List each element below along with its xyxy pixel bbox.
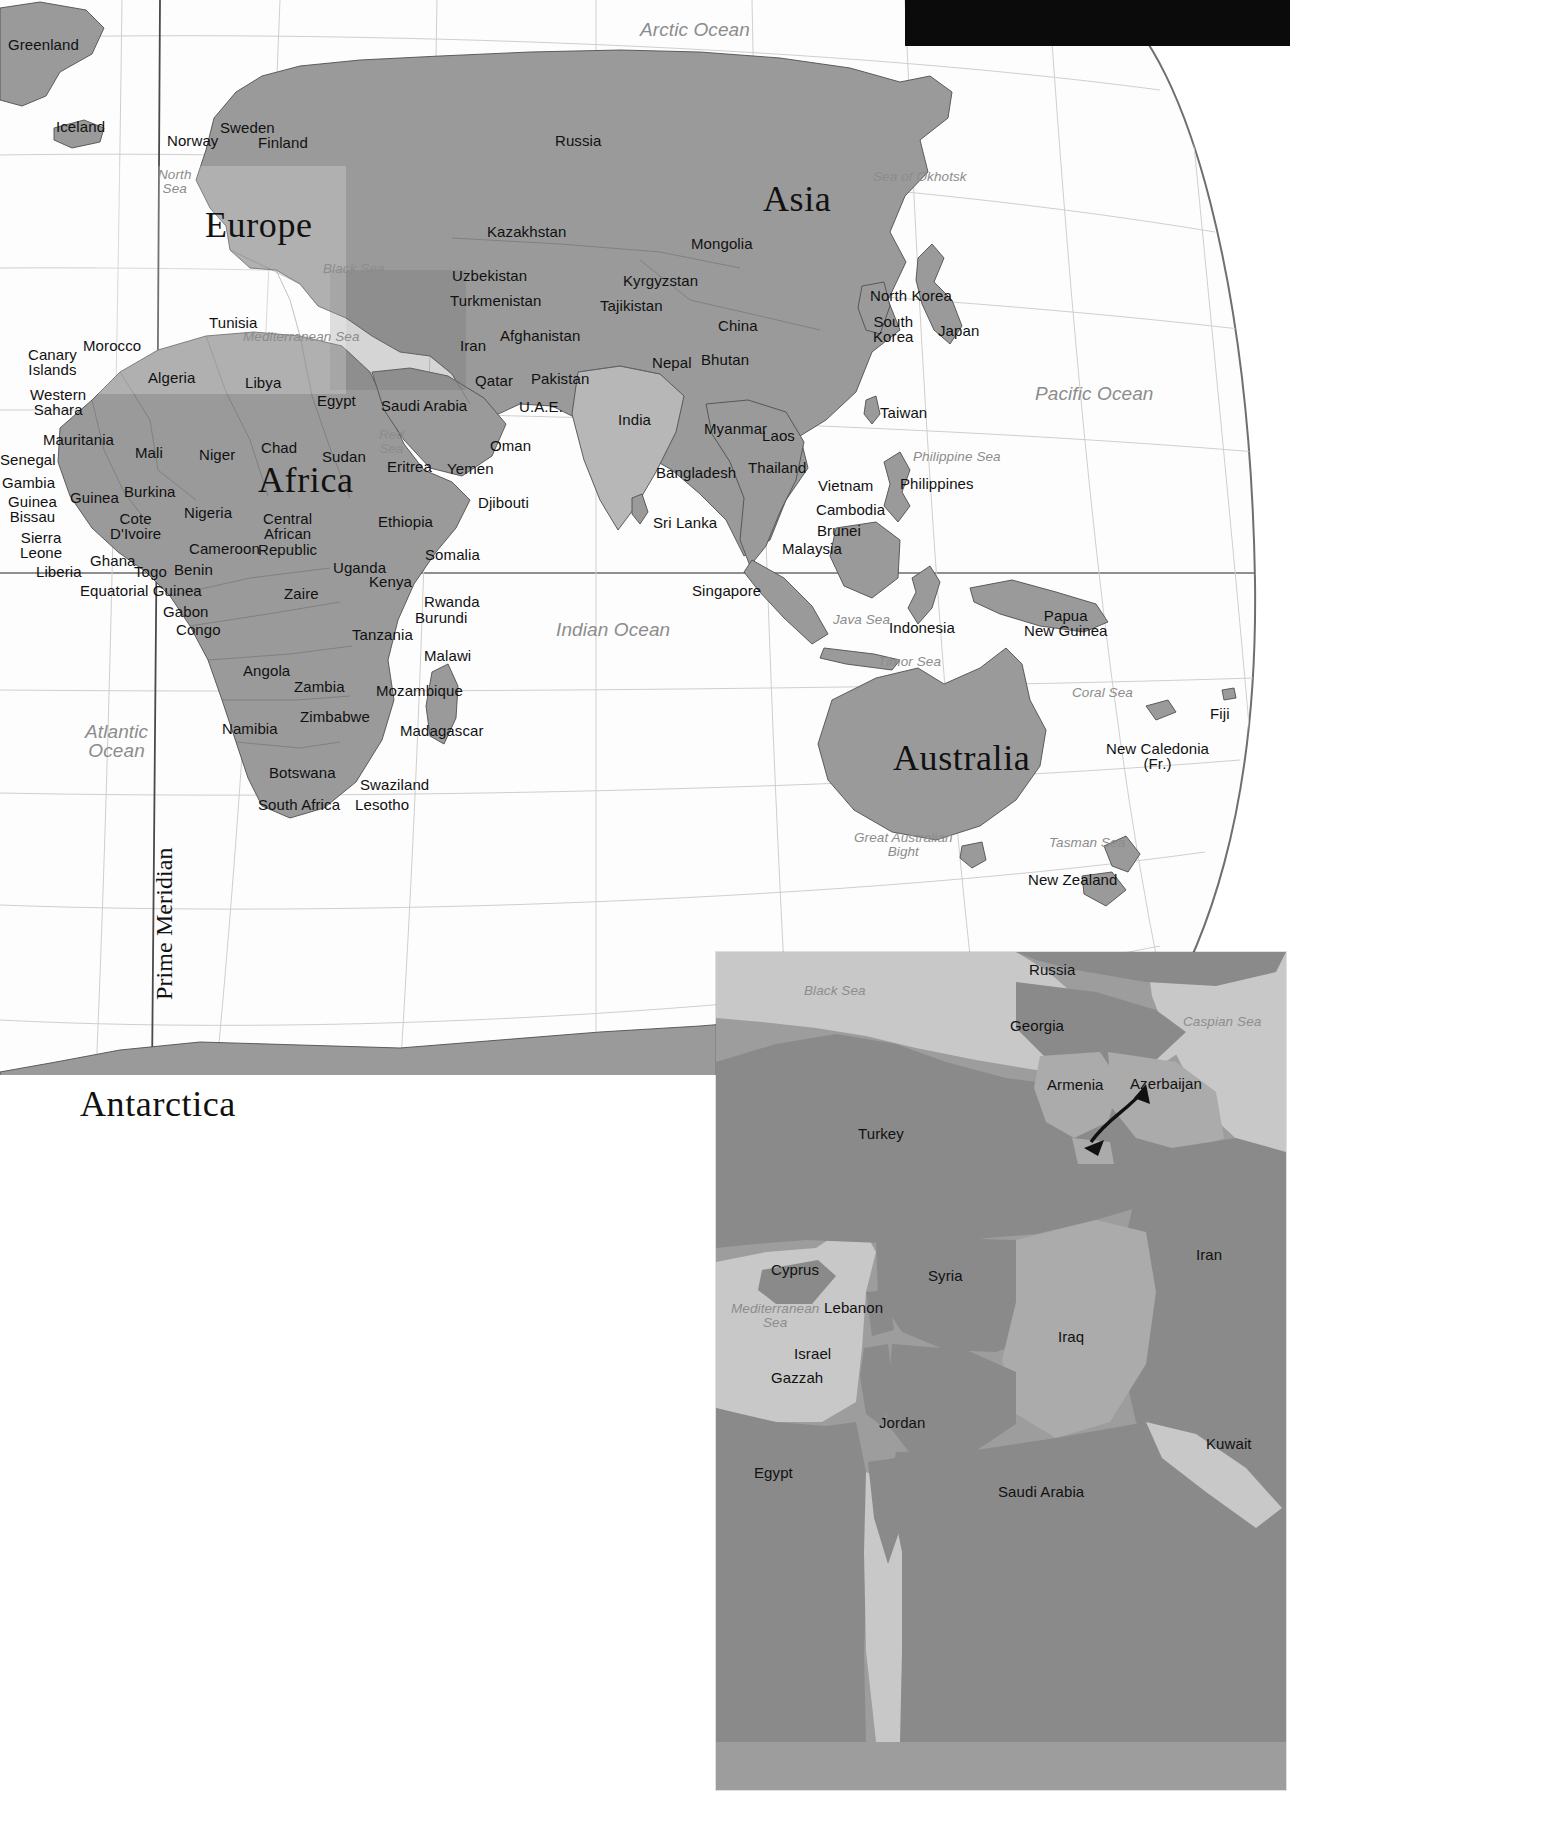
- scan-light-patch: [96, 166, 346, 394]
- inset-mediterranean-sea: [716, 1232, 876, 1422]
- page-right-margin: [1290, 0, 1549, 1844]
- inset-map-graphic: [716, 952, 1286, 1790]
- inset-region-highlight: [330, 270, 466, 390]
- map-plate: EuropeAsiaAfricaAustraliaAntarcticaArcti…: [0, 0, 1549, 1844]
- middle-east-inset-map[interactable]: Black SeaCaspian SeaMediterranean SeaRus…: [716, 952, 1286, 1790]
- inset-egypt: [716, 1408, 868, 1742]
- land-fiji: [1222, 688, 1236, 700]
